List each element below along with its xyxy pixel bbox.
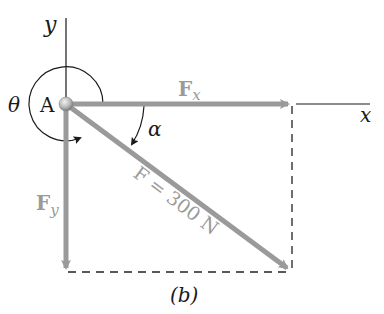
f-magnitude-label: F = 300 N — [130, 162, 223, 239]
point-a-label: A — [39, 93, 55, 117]
x-axis-label: x — [360, 103, 371, 127]
point-a-marker — [59, 97, 73, 111]
force-diagram: y x A θ α Fx Fy F = 300 N (b) — [0, 0, 384, 314]
fx-label: Fx — [178, 77, 201, 104]
y-axis-label: y — [43, 12, 57, 37]
fy-label: Fy — [36, 191, 59, 219]
figure-caption: (b) — [170, 283, 198, 307]
alpha-label: α — [148, 117, 162, 141]
alpha-arc-icon — [132, 106, 144, 144]
theta-label: θ — [8, 93, 20, 117]
